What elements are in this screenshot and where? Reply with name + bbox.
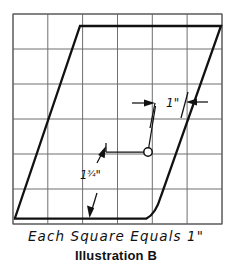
leader-group	[106, 106, 156, 156]
bottom-edge-callout	[87, 193, 97, 218]
dim-top-right-arrowhead	[186, 98, 197, 105]
dim-top-left-arrowhead	[144, 99, 155, 106]
dimension-label-1-inch: 1"	[166, 96, 179, 110]
illustration-figure: 1" 1¾" Each Square Equals 1" Illustratio…	[0, 0, 232, 268]
scale-caption: Each Square Equals 1"	[0, 228, 232, 244]
dimension-label-1-and-three-quarter-inch: 1¾"	[80, 168, 101, 182]
leader-diagonal	[148, 106, 156, 152]
figure-title: Illustration B	[0, 248, 232, 263]
dim-bottom-arrowhead	[98, 146, 106, 158]
dim-unit-mark: "	[95, 168, 100, 182]
leader-node-circle	[144, 148, 152, 156]
grid-group	[13, 14, 222, 224]
